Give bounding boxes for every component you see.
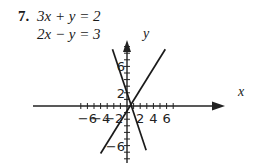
x-axis-label: x (237, 84, 245, 99)
x-tick-label: −2 (104, 111, 123, 126)
coordinate-plot: −6−4−224662−6xy (0, 0, 262, 167)
y-tick-label: 2 (117, 86, 125, 101)
x-tick-label: 4 (149, 111, 157, 126)
x-tick-label: 6 (162, 111, 170, 126)
x-axis-arrow-icon (212, 102, 225, 111)
y-axis-arrow-icon (123, 40, 131, 52)
y-axis-label: y (141, 26, 150, 41)
line-series-2 (101, 49, 166, 153)
problem-figure: 7. 3x + y = 2 2x − y = 3 −6−4−224662−6xy (0, 0, 262, 167)
